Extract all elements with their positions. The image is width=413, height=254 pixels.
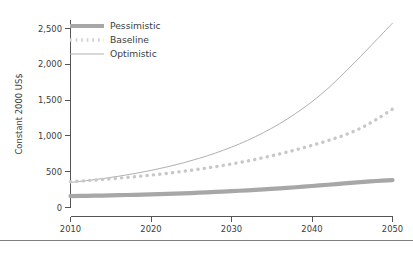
x-tick-label: 2040	[301, 224, 322, 234]
legend-item: Optimistic	[70, 48, 157, 59]
y-tick-label: 500	[46, 167, 62, 177]
x-tick-label: 2020	[140, 224, 161, 234]
line-chart: 05001,0001,5002,0002,500 201020202030204…	[0, 0, 413, 254]
figure-container: 05001,0001,5002,0002,500 201020202030204…	[0, 0, 413, 254]
chart-legend: PessimisticBaselineOptimistic	[70, 20, 161, 59]
legend-item: Pessimistic	[70, 20, 161, 31]
x-tick-label: 2030	[221, 224, 242, 234]
y-tick-label: 2,500	[38, 24, 62, 34]
x-tick-label: 2010	[60, 224, 81, 234]
x-tick-label: 2050	[382, 224, 403, 234]
legend-label: Baseline	[110, 34, 149, 45]
footer-divider	[0, 240, 413, 241]
legend-item: Baseline	[70, 34, 149, 45]
y-tick-label: 0	[57, 203, 62, 213]
y-tick-label: 2,000	[38, 59, 62, 69]
x-axis-ticks: 20102020203020402050	[60, 217, 403, 235]
y-tick-label: 1,000	[38, 131, 62, 141]
y-axis-ticks: 05001,0001,5002,0002,500	[38, 24, 70, 213]
series-line-baseline	[71, 109, 393, 182]
legend-label: Optimistic	[110, 48, 157, 59]
y-axis-title: Constant 2000 US$	[14, 73, 24, 154]
legend-label: Pessimistic	[110, 20, 161, 31]
series-line-pessimistic	[71, 180, 393, 196]
y-tick-label: 1,500	[38, 95, 62, 105]
